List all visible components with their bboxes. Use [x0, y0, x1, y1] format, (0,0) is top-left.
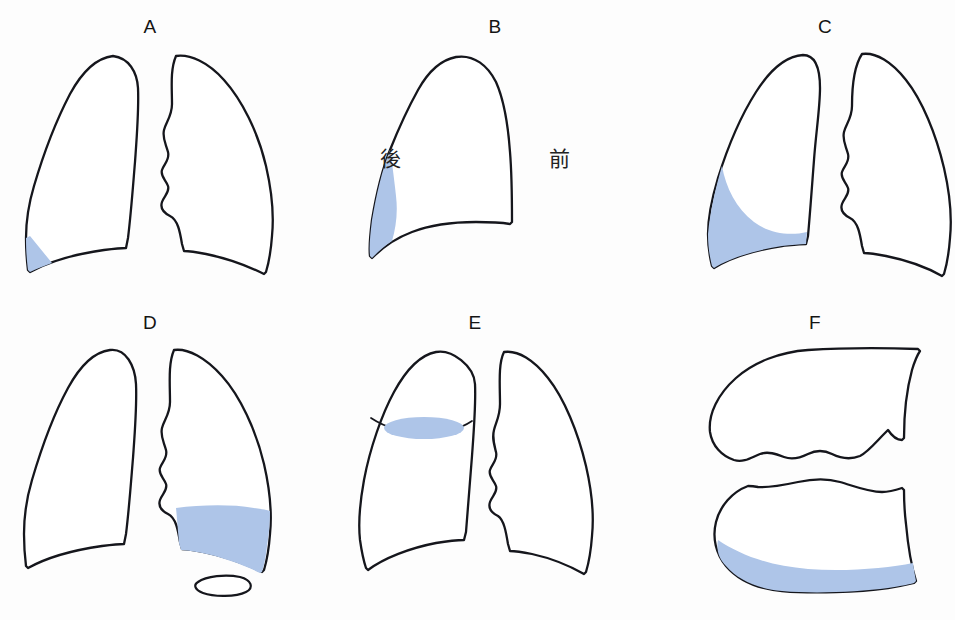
- panel-f: F: [640, 300, 955, 620]
- panel-c-diagram: [640, 0, 955, 300]
- panel-b-diagram: [320, 0, 640, 300]
- lung-outline-right-e: [489, 352, 592, 574]
- panel-letter-d: D: [130, 312, 170, 334]
- panel-letter-f: F: [795, 312, 835, 334]
- lung-outline-left-d: [24, 350, 136, 568]
- lung-outline-right-c: [841, 54, 950, 276]
- panel-d: D: [0, 300, 320, 620]
- lung-outline-upper-f: [710, 348, 920, 460]
- gastric-bubble-d: [195, 576, 251, 596]
- effusion-air-fluid-level-d: [176, 505, 270, 573]
- panel-e: E: [320, 300, 640, 620]
- panel-d-diagram: [0, 300, 320, 620]
- panel-a: A: [0, 0, 320, 300]
- effusion-interlobar-lens-e: [384, 417, 464, 439]
- panel-a-diagram: [0, 0, 320, 300]
- lung-outline-left-a: [26, 56, 138, 272]
- label-anterior: 前: [542, 142, 576, 172]
- lung-outline-left-e: [359, 352, 475, 570]
- panel-letter-a: A: [130, 16, 170, 38]
- caption-strip: [0, 606, 955, 620]
- panel-c: C: [640, 0, 955, 300]
- panel-f-diagram: [640, 300, 955, 620]
- panel-e-diagram: [320, 300, 640, 620]
- panel-b: B 後 前: [320, 0, 640, 300]
- lung-outline-right-a: [161, 56, 272, 274]
- panel-letter-b: B: [475, 16, 515, 38]
- figure-root: A B 後 前 C D: [0, 0, 955, 620]
- label-posterior: 後: [373, 142, 407, 172]
- panel-letter-c: C: [805, 16, 845, 38]
- panel-letter-e: E: [455, 312, 495, 334]
